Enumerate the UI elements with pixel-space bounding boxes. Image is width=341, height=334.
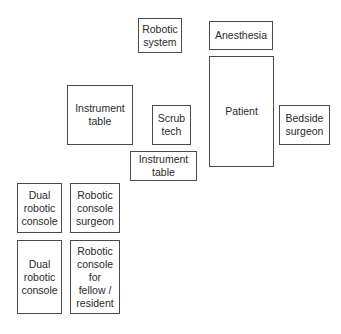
dual-robotic-console-1-box: Dual robotic console [17,183,62,233]
bedside-surgeon-box: Bedside surgeon [279,105,330,145]
robotic-system-label: Robotic system [142,23,178,49]
robotic-system-box: Robotic system [138,18,182,53]
robotic-console-fellow-label: Robotic console for fellow / resident [76,245,113,310]
instrument-table-large-label: Instrument table [75,102,125,128]
dual-robotic-console-2-label: Dual robotic console [21,258,57,297]
anesthesia-label: Anesthesia [215,29,267,42]
instrument-table-large-box: Instrument table [67,85,133,145]
instrument-table-small-label: Instrument table [139,153,189,179]
scrub-tech-box: Scrub tech [152,105,191,145]
patient-label: Patient [225,105,258,118]
dual-robotic-console-2-box: Dual robotic console [17,240,62,314]
anesthesia-box: Anesthesia [209,21,273,50]
dual-robotic-console-1-label: Dual robotic console [21,189,57,228]
patient-box: Patient [209,56,274,167]
robotic-console-fellow-box: Robotic console for fellow / resident [70,240,120,314]
scrub-tech-label: Scrub tech [158,112,185,138]
instrument-table-small-box: Instrument table [130,151,197,181]
bedside-surgeon-label: Bedside surgeon [286,112,324,138]
robotic-console-surgeon-label: Robotic console surgeon [76,189,114,228]
robotic-console-surgeon-box: Robotic console surgeon [70,183,120,233]
